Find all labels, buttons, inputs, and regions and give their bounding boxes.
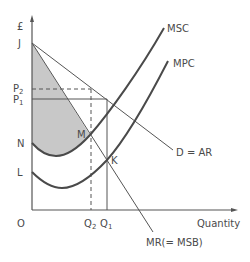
mpc-label: MPC (173, 58, 195, 69)
label-j: J (17, 38, 21, 49)
label-k: K (111, 155, 118, 166)
label-n: N (17, 138, 24, 149)
y-axis-arrow-icon (30, 15, 34, 22)
mr-msb-label: MR(= MSB) (146, 237, 203, 248)
label-l: L (17, 167, 23, 178)
monopoly-externality-diagram: £ J P2 P1 N L O Q2 Q1 Quantity M K MSC M… (0, 0, 250, 262)
x-axis-label: Quantity (197, 218, 240, 229)
x-axis-arrow-icon (231, 208, 238, 212)
msc-label: MSC (167, 23, 189, 34)
origin-label: O (17, 218, 25, 229)
label-q2: Q2 (84, 218, 96, 231)
label-m: M (77, 129, 86, 140)
y-axis-label: £ (17, 21, 23, 32)
label-q1: Q1 (100, 218, 112, 231)
demand-ar-label: D = AR (176, 147, 212, 158)
